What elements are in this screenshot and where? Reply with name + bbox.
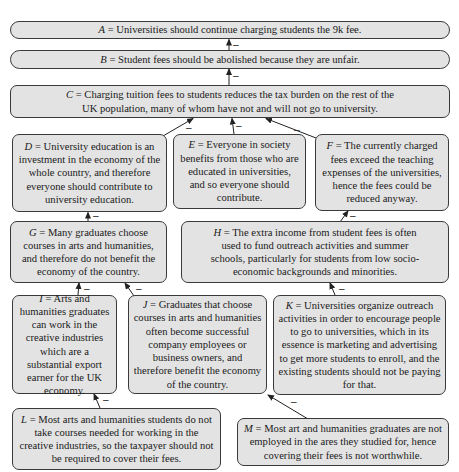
edge-E-C (232, 119, 234, 135)
edge-M-J (268, 395, 308, 419)
node-B: B = Student fees should be abolished bec… (10, 50, 450, 69)
node-E: E = Everyone in society benefits from th… (173, 134, 306, 209)
edge-sign-B-A: – (233, 40, 239, 50)
node-F: F = The currently charged fees exceed th… (315, 134, 449, 211)
edge-sign-M-J: – (291, 397, 297, 407)
node-G: G = Many graduates choose courses in art… (10, 221, 167, 283)
node-H: H = The extra income from student fees i… (181, 221, 449, 283)
edge-J-G (125, 283, 134, 296)
edge-sign-E-C: – (236, 121, 242, 131)
edge-sign-K-H: – (339, 284, 345, 294)
edge-sign-H-F: – (350, 211, 356, 221)
node-I: I = Arts and humanities graduates can wo… (12, 295, 117, 394)
node-J: J = Graduates that choose courses in art… (128, 295, 267, 394)
node-L: L = Most arts and humanities students do… (12, 408, 221, 470)
edge-sign-D-C: – (186, 123, 192, 133)
edge-sign-J-G: – (136, 284, 142, 294)
node-D: D = University education is an investmen… (12, 134, 167, 212)
node-A: A = Universities should continue chargin… (10, 21, 450, 39)
edge-sign-G-D: – (93, 211, 99, 221)
node-C: C = Charging tuition fees to students re… (10, 85, 450, 118)
edge-sign-C-B: – (233, 71, 239, 81)
edge-K-H (330, 283, 335, 295)
node-K: K = Universities organize outreach activ… (273, 295, 446, 395)
node-M: M = Most art and humanities graduates ar… (237, 418, 449, 466)
